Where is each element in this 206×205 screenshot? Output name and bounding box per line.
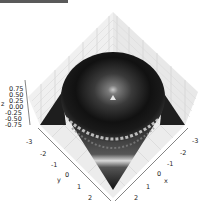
svg-text:-3: -3 (26, 138, 32, 146)
svg-text:-2: -2 (40, 150, 46, 158)
svg-text:-1: -1 (51, 161, 57, 169)
svg-text:-3: -3 (192, 137, 198, 145)
svg-text:y: y (57, 176, 61, 184)
surface-plot: 0.75 0.50 0.25 0.00 -0.25 -0.50 -0.75 z … (0, 0, 206, 205)
svg-text:1: 1 (77, 183, 81, 191)
svg-text:-1: -1 (167, 160, 173, 168)
svg-text:0: 0 (157, 170, 161, 178)
svg-text:z: z (1, 100, 5, 108)
svg-text:0: 0 (65, 171, 69, 179)
svg-text:2: 2 (134, 194, 138, 202)
svg-text:-2: -2 (180, 149, 186, 157)
svg-text:-0.75: -0.75 (5, 121, 22, 129)
z-axis: 0.75 0.50 0.25 0.00 -0.25 -0.50 -0.75 z (1, 80, 30, 129)
svg-text:2: 2 (88, 194, 92, 202)
svg-text:1: 1 (146, 183, 150, 191)
svg-text:x: x (164, 177, 168, 185)
